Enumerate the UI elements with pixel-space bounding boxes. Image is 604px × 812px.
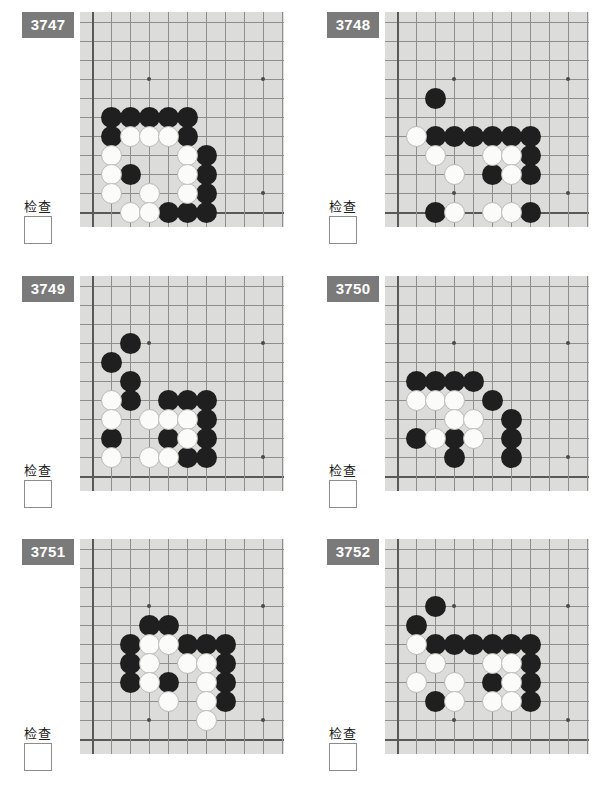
white-stone[interactable]	[425, 390, 446, 411]
black-stone[interactable]	[501, 409, 522, 430]
white-stone[interactable]	[501, 164, 522, 185]
go-board[interactable]	[80, 539, 284, 754]
white-stone[interactable]	[158, 409, 179, 430]
white-stone[interactable]	[482, 653, 503, 674]
white-stone[interactable]	[139, 634, 160, 655]
black-stone[interactable]	[215, 653, 236, 674]
black-stone[interactable]	[406, 428, 427, 449]
white-stone[interactable]	[158, 691, 179, 712]
white-stone[interactable]	[101, 390, 122, 411]
black-stone[interactable]	[158, 615, 179, 636]
white-stone[interactable]	[444, 672, 465, 693]
go-board[interactable]	[80, 276, 284, 491]
black-stone[interactable]	[196, 409, 217, 430]
black-stone[interactable]	[101, 352, 122, 373]
white-stone[interactable]	[444, 691, 465, 712]
black-stone[interactable]	[425, 88, 446, 109]
white-stone[interactable]	[177, 428, 198, 449]
black-stone[interactable]	[101, 428, 122, 449]
white-stone[interactable]	[101, 447, 122, 468]
white-stone[interactable]	[139, 447, 160, 468]
black-stone[interactable]	[444, 447, 465, 468]
white-stone[interactable]	[406, 390, 427, 411]
black-stone[interactable]	[463, 371, 484, 392]
white-stone[interactable]	[444, 164, 465, 185]
black-stone[interactable]	[120, 371, 141, 392]
white-stone[interactable]	[101, 183, 122, 204]
black-stone[interactable]	[425, 691, 446, 712]
black-stone[interactable]	[177, 107, 198, 128]
black-stone[interactable]	[482, 634, 503, 655]
black-stone[interactable]	[196, 145, 217, 166]
black-stone[interactable]	[158, 390, 179, 411]
black-stone[interactable]	[177, 126, 198, 147]
white-stone[interactable]	[158, 634, 179, 655]
black-stone[interactable]	[425, 371, 446, 392]
black-stone[interactable]	[463, 126, 484, 147]
black-stone[interactable]	[501, 634, 522, 655]
go-board[interactable]	[385, 539, 589, 754]
go-board[interactable]	[80, 12, 284, 227]
white-stone[interactable]	[196, 691, 217, 712]
black-stone[interactable]	[425, 126, 446, 147]
black-stone[interactable]	[196, 428, 217, 449]
white-stone[interactable]	[139, 672, 160, 693]
white-stone[interactable]	[482, 145, 503, 166]
black-stone[interactable]	[158, 672, 179, 693]
black-stone[interactable]	[406, 371, 427, 392]
white-stone[interactable]	[177, 653, 198, 674]
black-stone[interactable]	[120, 333, 141, 354]
black-stone[interactable]	[177, 634, 198, 655]
black-stone[interactable]	[120, 634, 141, 655]
white-stone[interactable]	[501, 653, 522, 674]
black-stone[interactable]	[425, 596, 446, 617]
black-stone[interactable]	[501, 447, 522, 468]
black-stone[interactable]	[501, 126, 522, 147]
white-stone[interactable]	[406, 634, 427, 655]
white-stone[interactable]	[120, 202, 141, 223]
white-stone[interactable]	[158, 126, 179, 147]
black-stone[interactable]	[425, 202, 446, 223]
black-stone[interactable]	[139, 615, 160, 636]
white-stone[interactable]	[101, 164, 122, 185]
black-stone[interactable]	[520, 653, 541, 674]
black-stone[interactable]	[120, 672, 141, 693]
white-stone[interactable]	[501, 672, 522, 693]
white-stone[interactable]	[177, 164, 198, 185]
black-stone[interactable]	[520, 634, 541, 655]
white-stone[interactable]	[425, 653, 446, 674]
white-stone[interactable]	[101, 145, 122, 166]
white-stone[interactable]	[139, 183, 160, 204]
white-stone[interactable]	[444, 202, 465, 223]
white-stone[interactable]	[501, 145, 522, 166]
black-stone[interactable]	[501, 428, 522, 449]
white-stone[interactable]	[139, 126, 160, 147]
black-stone[interactable]	[482, 672, 503, 693]
black-stone[interactable]	[520, 691, 541, 712]
black-stone[interactable]	[120, 390, 141, 411]
white-stone[interactable]	[425, 145, 446, 166]
black-stone[interactable]	[158, 107, 179, 128]
go-board[interactable]	[385, 12, 589, 227]
black-stone[interactable]	[196, 634, 217, 655]
black-stone[interactable]	[196, 164, 217, 185]
black-stone[interactable]	[520, 145, 541, 166]
black-stone[interactable]	[520, 164, 541, 185]
black-stone[interactable]	[196, 202, 217, 223]
black-stone[interactable]	[158, 202, 179, 223]
black-stone[interactable]	[482, 390, 503, 411]
black-stone[interactable]	[177, 447, 198, 468]
check-checkbox[interactable]	[329, 480, 357, 508]
white-stone[interactable]	[406, 672, 427, 693]
white-stone[interactable]	[177, 409, 198, 430]
black-stone[interactable]	[444, 126, 465, 147]
white-stone[interactable]	[120, 126, 141, 147]
black-stone[interactable]	[444, 634, 465, 655]
black-stone[interactable]	[215, 691, 236, 712]
white-stone[interactable]	[139, 409, 160, 430]
white-stone[interactable]	[139, 653, 160, 674]
black-stone[interactable]	[444, 371, 465, 392]
check-checkbox[interactable]	[24, 480, 52, 508]
black-stone[interactable]	[482, 126, 503, 147]
black-stone[interactable]	[215, 634, 236, 655]
